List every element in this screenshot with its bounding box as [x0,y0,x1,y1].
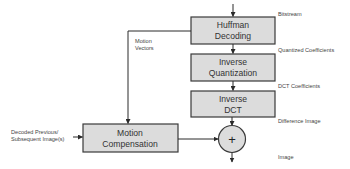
decoded-previous-label-2: Subsequent Image(s) [11,136,65,142]
idct-label-1: Inverse [219,94,247,104]
motion-vectors-label-2: Vectors [135,45,154,51]
mpeg-decoder-diagram: Huffman Decoding Inverse Quantization In… [0,0,350,169]
idct-label-2: DCT [224,105,242,115]
mc-label-2: Compensation [102,139,158,149]
difference-image-label: Difference Image [278,118,321,124]
decoded-previous-label-1: Decoded Previous/ [11,129,59,135]
inverse-dct-block: Inverse DCT [191,91,275,117]
bitstream-label: Bitstream [278,11,302,17]
huffman-decoding-block: Huffman Decoding [191,17,275,44]
image-label: Image [278,154,294,160]
plus-icon: + [228,132,236,147]
mc-label-1: Motion [117,128,143,138]
adder-node: + [219,126,246,153]
huffman-label-1: Huffman [217,20,250,30]
iq-label-1: Inverse [219,57,247,67]
inverse-quantization-block: Inverse Quantization [191,54,275,81]
motion-compensation-block: Motion Compensation [83,124,178,152]
iq-label-2: Quantization [209,68,257,78]
quantized-coefficients-label: Quantized Coefficients [278,47,334,53]
motion-vectors-label-1: Motion [135,38,152,44]
huffman-label-2: Decoding [215,31,252,41]
dct-coefficients-label: DCT Coefficients [278,83,320,89]
